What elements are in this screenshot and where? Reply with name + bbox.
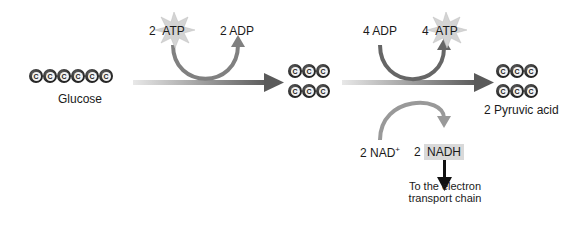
glucose-label: Glucose <box>58 92 102 106</box>
carbon-atom: C <box>302 84 316 98</box>
carbon-atom: C <box>510 64 524 78</box>
carbon-atom: C <box>288 84 302 98</box>
carbon-atom: C <box>496 64 510 78</box>
main-arrow-1 <box>133 73 284 92</box>
carbon-atom: C <box>496 84 510 98</box>
carbon-atom: C <box>99 69 113 83</box>
carbon-atom: C <box>510 84 524 98</box>
pyruvate-label: 2 Pyruvic acid <box>484 103 559 117</box>
atp-investment-curve <box>173 45 238 79</box>
carbon-atom: C <box>57 69 71 83</box>
nadh-label: 2 NADH <box>414 145 464 159</box>
carbon-atom: C <box>524 84 538 98</box>
adp-input-label: 4 ADP <box>363 24 397 38</box>
pyruvate-molecule-2: C C C <box>496 84 538 98</box>
carbon-atom: C <box>43 69 57 83</box>
carbon-atom: C <box>302 64 316 78</box>
carbon-atom: C <box>316 64 330 78</box>
intermediate-molecule-1: C C C <box>288 64 330 78</box>
atp-investment-label: 2 ATP <box>149 24 185 38</box>
atp-payoff-curve <box>380 45 444 79</box>
carbon-atom: C <box>288 64 302 78</box>
atp-text: ATP <box>435 24 457 38</box>
nad-reduction-curve <box>380 103 444 140</box>
atp-text: ATP <box>162 24 184 38</box>
atp-count: 4 <box>422 24 429 38</box>
intermediate-molecule-2: C C C <box>288 84 330 98</box>
nadh-box: NADH <box>424 144 464 160</box>
carbon-atom: C <box>316 84 330 98</box>
carbon-atom: C <box>29 69 43 83</box>
main-arrow-2 <box>342 73 494 92</box>
pyruvate-molecule-1: C C C <box>496 64 538 78</box>
nadh-count: 2 <box>414 145 421 159</box>
glucose-molecule: C C C C C C <box>29 69 113 83</box>
atp-count: 2 <box>149 24 156 38</box>
nadh-arrowhead <box>437 116 451 128</box>
etc-destination-label: To the electron transport chain <box>405 180 485 204</box>
adp-output-label: 2 ADP <box>220 24 254 38</box>
atp-payoff-label: 4 ATP <box>422 24 458 38</box>
carbon-atom: C <box>85 69 99 83</box>
carbon-atom: C <box>71 69 85 83</box>
carbon-atom: C <box>524 64 538 78</box>
nad-plus-label: 2 NAD+ <box>360 145 400 160</box>
